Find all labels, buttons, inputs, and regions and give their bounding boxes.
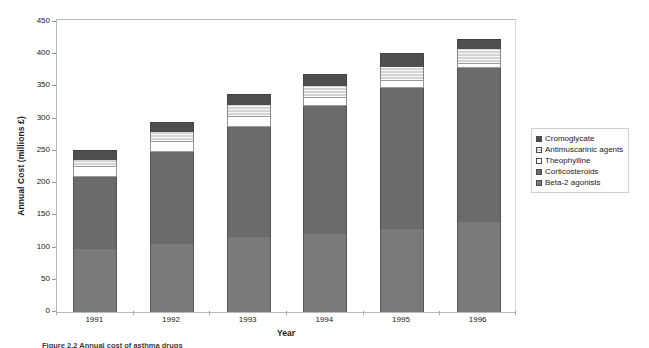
bar-segment[interactable] bbox=[380, 229, 424, 312]
x-axis-tick-mark bbox=[286, 311, 287, 315]
bar-segment[interactable] bbox=[457, 49, 501, 63]
bar-segment[interactable] bbox=[457, 39, 501, 49]
bar-group bbox=[73, 22, 117, 312]
bar-group bbox=[227, 22, 271, 312]
y-axis-tick-label: 150 bbox=[20, 210, 50, 218]
bar-segment[interactable] bbox=[150, 141, 194, 152]
legend-swatch-antimuscarinic-icon bbox=[536, 147, 542, 153]
figure-caption: Figure 2.2 Annual cost of asthma drugs bbox=[42, 341, 462, 348]
bar-segment[interactable] bbox=[73, 249, 117, 312]
bar-segment[interactable] bbox=[457, 68, 501, 221]
bars-container bbox=[57, 22, 515, 312]
x-axis-title: Year bbox=[56, 328, 516, 338]
chart-legend: CromoglycateAntimuscarinic agentsTheophy… bbox=[531, 128, 629, 193]
x-axis-tick-mark bbox=[515, 311, 516, 315]
bar-group bbox=[150, 22, 194, 312]
legend-label: Theophylline bbox=[545, 156, 590, 165]
legend-label: Cromoglycate bbox=[545, 134, 594, 143]
bar-segment[interactable] bbox=[380, 80, 424, 88]
x-axis-tick-mark bbox=[56, 311, 57, 315]
legend-swatch-theophylline-icon bbox=[536, 158, 542, 164]
legend-item[interactable]: Theophylline bbox=[536, 155, 623, 166]
bar-segment[interactable] bbox=[227, 105, 271, 116]
plot-area bbox=[56, 19, 516, 313]
bar-segment[interactable] bbox=[303, 97, 347, 106]
stacked-bar[interactable] bbox=[380, 53, 424, 312]
y-axis-tick-label: 100 bbox=[20, 243, 50, 251]
legend-swatch-corticosteroids-icon bbox=[536, 169, 542, 175]
bar-segment[interactable] bbox=[227, 237, 271, 312]
bar-segment[interactable] bbox=[150, 244, 194, 312]
bar-segment[interactable] bbox=[303, 74, 347, 86]
x-axis-tick-mark bbox=[363, 311, 364, 315]
x-axis-tick-labels: 199119921993199419951996 bbox=[56, 315, 516, 329]
bar-segment[interactable] bbox=[303, 86, 347, 97]
legend-item[interactable]: Beta-2 agonists bbox=[536, 177, 623, 188]
stacked-bar[interactable] bbox=[150, 122, 194, 312]
bar-segment[interactable] bbox=[380, 53, 424, 67]
stacked-bar[interactable] bbox=[303, 74, 347, 312]
bar-segment[interactable] bbox=[380, 67, 424, 80]
bar-segment[interactable] bbox=[380, 88, 424, 229]
legend-label: Antimuscarinic agents bbox=[545, 145, 623, 154]
legend-label: Corticosteroids bbox=[545, 167, 598, 176]
stacked-bar[interactable] bbox=[73, 150, 117, 312]
bar-segment[interactable] bbox=[303, 234, 347, 312]
stacked-bar[interactable] bbox=[457, 39, 501, 312]
x-axis-tick-label: 1994 bbox=[294, 315, 354, 325]
bar-group bbox=[303, 22, 347, 312]
stacked-bar[interactable] bbox=[227, 94, 271, 312]
x-axis-tick-label: 1993 bbox=[218, 315, 278, 325]
legend-swatch-beta2-icon bbox=[536, 180, 542, 186]
legend-item[interactable]: Antimuscarinic agents bbox=[536, 144, 623, 155]
bar-segment[interactable] bbox=[150, 132, 194, 140]
y-axis-tick-label: 50 bbox=[20, 275, 50, 283]
bar-segment[interactable] bbox=[227, 94, 271, 105]
bar-segment[interactable] bbox=[73, 150, 117, 160]
bar-segment[interactable] bbox=[227, 116, 271, 127]
bar-segment[interactable] bbox=[73, 166, 117, 177]
x-axis-tick-label: 1996 bbox=[448, 315, 508, 325]
x-axis-tick-mark bbox=[133, 311, 134, 315]
bar-segment[interactable] bbox=[150, 152, 194, 245]
bar-segment[interactable] bbox=[457, 222, 501, 312]
bar-segment[interactable] bbox=[227, 127, 271, 237]
y-axis-tick-label: 450 bbox=[20, 17, 50, 25]
y-axis-tick-label: 350 bbox=[20, 81, 50, 89]
y-axis-tick-label: 400 bbox=[20, 49, 50, 57]
bar-segment[interactable] bbox=[303, 106, 347, 234]
y-axis-tick-labels: 050100150200250300350400450 bbox=[20, 14, 56, 318]
legend-swatch-cromoglycate-icon bbox=[536, 136, 542, 142]
x-axis-tick-mark bbox=[209, 311, 210, 315]
y-axis-tick-label: 200 bbox=[20, 178, 50, 186]
legend-item[interactable]: Corticosteroids bbox=[536, 166, 623, 177]
chart-figure: Annual Cost (millions £) 050100150200250… bbox=[0, 0, 649, 348]
bar-group bbox=[380, 22, 424, 312]
legend-item[interactable]: Cromoglycate bbox=[536, 133, 623, 144]
x-axis-tick-label: 1992 bbox=[141, 315, 201, 325]
legend-label: Beta-2 agonists bbox=[545, 178, 601, 187]
x-axis-tick-label: 1995 bbox=[371, 315, 431, 325]
y-axis-tick-label: 0 bbox=[20, 307, 50, 315]
bar-group bbox=[457, 22, 501, 312]
y-axis-tick-label: 300 bbox=[20, 114, 50, 122]
x-axis-tick-label: 1991 bbox=[64, 315, 124, 325]
bar-segment[interactable] bbox=[150, 122, 194, 132]
bar-segment[interactable] bbox=[73, 177, 117, 249]
y-axis-tick-label: 250 bbox=[20, 146, 50, 154]
x-axis-tick-mark bbox=[439, 311, 440, 315]
